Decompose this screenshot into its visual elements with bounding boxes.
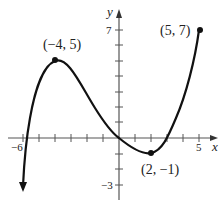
label-point-end: (5, 7) xyxy=(160,23,191,39)
tick-label-7: 7 xyxy=(106,24,112,36)
tick-label-neg3: −3 xyxy=(101,179,113,191)
tick-label-neg6: −6 xyxy=(11,141,23,153)
label-point-max: (−4, 5) xyxy=(43,37,82,53)
tick-label-5: 5 xyxy=(196,141,202,153)
point-max-dot xyxy=(52,57,58,63)
y-axis-arrow-icon xyxy=(116,9,122,18)
curve-down-arrow-icon xyxy=(19,182,27,192)
point-min-dot xyxy=(148,150,154,156)
label-point-min: (2, −1) xyxy=(141,162,180,178)
x-axis-label: x xyxy=(211,139,218,154)
point-end-dot xyxy=(197,27,203,33)
y-axis xyxy=(115,9,123,200)
x-axis xyxy=(8,134,218,142)
function-graph: (−4, 5) (5, 7) (2, −1) y x 7 −3 −6 5 xyxy=(0,0,223,201)
y-axis-label: y xyxy=(105,4,113,19)
